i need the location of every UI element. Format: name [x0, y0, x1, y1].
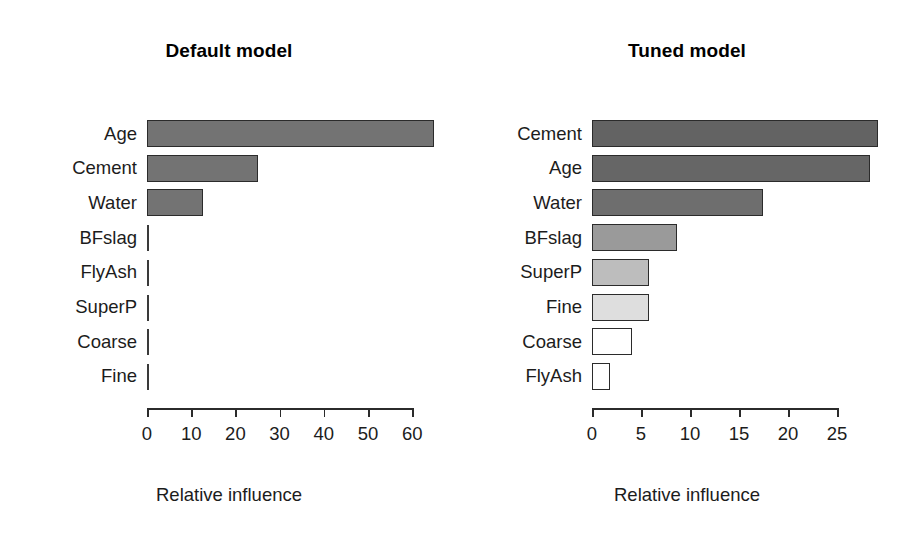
- category-label-superp: SuperP: [75, 298, 137, 317]
- category-label-coarse: Coarse: [77, 333, 137, 352]
- axis-title-default: Relative influence: [0, 484, 458, 506]
- category-label-cement: Cement: [517, 125, 582, 144]
- category-label-fine: Fine: [546, 298, 582, 317]
- x-axis-tick: [412, 408, 414, 417]
- bar-coarse: [592, 328, 632, 355]
- category-label-bfslag: BFslag: [79, 229, 137, 248]
- x-axis-tick: [235, 408, 237, 417]
- panel-default-model: Default model AgeCementWaterBFslagFlyAsh…: [0, 0, 458, 537]
- category-label-age: Age: [549, 159, 582, 178]
- x-axis-tick: [368, 408, 370, 417]
- x-axis-tick: [690, 408, 692, 417]
- category-label-flyash: FlyAsh: [80, 263, 137, 282]
- bar-bfslag: [147, 225, 149, 251]
- bar-age: [592, 155, 870, 182]
- bar-flyash: [592, 363, 610, 390]
- category-label-bfslag: BFslag: [524, 229, 582, 248]
- x-axis-line: [592, 408, 837, 410]
- x-axis-tick: [641, 408, 643, 417]
- x-axis-tick: [592, 408, 594, 417]
- bar-fine: [592, 294, 649, 321]
- figure-variable-importance: Default model AgeCementWaterBFslagFlyAsh…: [0, 0, 916, 537]
- bar-bfslag: [592, 224, 677, 251]
- category-label-water: Water: [88, 194, 137, 213]
- axis-title-tuned: Relative influence: [458, 484, 916, 506]
- category-label-flyash: FlyAsh: [525, 367, 582, 386]
- category-label-fine: Fine: [101, 367, 137, 386]
- bar-fine: [147, 364, 149, 390]
- bar-age: [147, 120, 434, 147]
- x-axis-tick-label: 60: [382, 425, 442, 444]
- x-axis-tick: [788, 408, 790, 417]
- bar-superp: [592, 259, 649, 286]
- category-label-coarse: Coarse: [522, 333, 582, 352]
- x-axis-tick: [739, 408, 741, 417]
- category-label-age: Age: [104, 125, 137, 144]
- bar-superp: [147, 295, 149, 321]
- bar-cement: [592, 120, 878, 147]
- category-label-superp: SuperP: [520, 263, 582, 282]
- x-axis-tick-label: 25: [807, 425, 867, 444]
- x-axis-tick: [324, 408, 326, 417]
- panel-tuned-model: Tuned model CementAgeWaterBFslagSuperPFi…: [458, 0, 916, 537]
- x-axis-tick: [837, 408, 839, 417]
- bar-coarse: [147, 329, 149, 355]
- plot-area-default: AgeCementWaterBFslagFlyAshSuperPCoarseFi…: [0, 0, 458, 537]
- category-label-water: Water: [533, 194, 582, 213]
- bar-water: [147, 189, 203, 216]
- bar-cement: [147, 155, 258, 182]
- x-axis-tick: [280, 408, 282, 417]
- bar-flyash: [147, 260, 149, 286]
- x-axis-tick: [191, 408, 193, 417]
- category-label-cement: Cement: [72, 159, 137, 178]
- plot-area-tuned: CementAgeWaterBFslagSuperPFineCoarseFlyA…: [458, 0, 916, 537]
- bar-water: [592, 189, 763, 216]
- x-axis-tick: [147, 408, 149, 417]
